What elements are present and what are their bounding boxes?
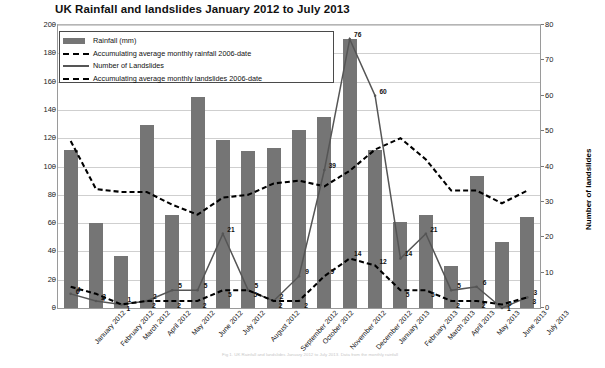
y-tickmark-left [52, 81, 56, 82]
y-tick-right: 70 [540, 55, 579, 64]
y-tick-left: 160 [20, 76, 56, 85]
chart-legend: Rainfall (mm)Accumulating average monthl… [59, 31, 334, 83]
x-tick-label: August 2012 [269, 309, 301, 343]
y-tickmark-left [52, 166, 56, 167]
y-tick-left: 20 [20, 274, 56, 283]
legend-item-label: Accumulating average monthly rainfall 20… [93, 49, 251, 58]
landslide-value-label: 5 [204, 282, 208, 289]
x-tick-label: July 2013 [545, 309, 570, 336]
landslide-avg-label: 5 [431, 291, 435, 298]
landslide-avg-label: 4 [101, 294, 105, 301]
landslide-value-label: 1 [128, 296, 132, 303]
y-tickmark-left [52, 222, 56, 223]
y-tick-right: 80 [540, 20, 579, 29]
legend-key-icon [63, 49, 89, 58]
y-tick-right: 50 [540, 126, 579, 135]
landslide-avg-label: 9 [331, 268, 335, 275]
y-axis-right: 01020304050607080 [540, 24, 574, 307]
landslide-value-label: 5 [178, 282, 182, 289]
legend-item-label: Number of Landslides [93, 61, 164, 70]
landslide-avg-label: 3 [532, 298, 536, 305]
chart-title: UK Rainfall and landslides January 2012 … [55, 3, 555, 15]
y-tick-right: 10 [540, 267, 579, 276]
y-tickmark-left [52, 52, 56, 53]
y-tick-left: 80 [20, 189, 56, 198]
figure-caption: Fig 1. UK Rainfall and landslides Januar… [60, 352, 560, 357]
y-tickmark-left [52, 279, 56, 280]
y-tick-left: 40 [20, 246, 56, 255]
y-axis-left: 020406080100120140160180200 [20, 24, 56, 307]
y-tick-right: 40 [540, 161, 579, 170]
y-tick-left: 180 [20, 48, 56, 57]
legend-item[interactable]: Accumulating average monthly rainfall 20… [63, 47, 330, 59]
y-tick-left: 100 [20, 161, 56, 170]
landslide-value-label: 2 [153, 292, 157, 299]
legend-item-label: Accumulating average monthly landslides … [93, 74, 262, 83]
y-tickmark-left [52, 250, 56, 251]
landslide-avg-label: 5 [228, 291, 232, 298]
y-tick-left: 200 [20, 20, 56, 29]
landslide-value-label: 5 [457, 282, 461, 289]
landslide-avg-label: 5 [406, 291, 410, 298]
landslide-avg-label: 2 [279, 301, 283, 308]
landslide-avg-label: 14 [354, 250, 361, 257]
chart-figure: UK Rainfall and landslides January 2012 … [0, 0, 605, 368]
y-tick-right: 60 [540, 90, 579, 99]
landslide-value-label: 3 [533, 289, 537, 296]
legend-item[interactable]: Rainfall (mm) [63, 35, 330, 47]
landslide-value-label: 2 [280, 292, 284, 299]
y-tick-left: 60 [20, 218, 56, 227]
legend-item[interactable]: Accumulating average monthly landslides … [63, 72, 330, 84]
y-tick-left: 140 [20, 104, 56, 113]
landslide-value-label: 21 [430, 225, 437, 232]
landslide-value-label: 76 [354, 31, 361, 38]
landslide-avg-label: 5 [253, 291, 257, 298]
landslide-avg-label: 2 [152, 301, 156, 308]
legend-item[interactable]: Number of Landslides [63, 60, 330, 72]
y-tickmark-left [52, 24, 56, 25]
landslide-value-label: 60 [379, 87, 386, 94]
landslide-avg-label: 12 [379, 257, 386, 264]
landslide-value-label: 5 [254, 282, 258, 289]
landslide-value-label: 39 [329, 162, 336, 169]
y-tickmark-left [52, 109, 56, 110]
landslide-value-label: 14 [405, 250, 412, 257]
landslide-avg-label: 2 [482, 301, 486, 308]
x-tick-label: June 2012 [216, 309, 243, 338]
x-tick-label: May 2012 [190, 309, 216, 337]
landslide-value-label: 6 [483, 278, 487, 285]
landslide-avg-label: 6 [76, 287, 80, 294]
y-tick-right: 30 [540, 196, 579, 205]
y-tick-right: 0 [540, 303, 579, 312]
legend-key-icon [63, 74, 89, 83]
landslide-value-label: 21 [227, 225, 234, 232]
landslide-avg-label: 2 [304, 301, 308, 308]
x-tick-label: June 2013 [521, 309, 548, 338]
legend-key-icon [63, 36, 89, 45]
x-tick-label: May 2013 [495, 309, 521, 337]
legend-item-label: Rainfall (mm) [93, 36, 136, 45]
y-tickmark-left [52, 137, 56, 138]
y-tick-left: 0 [20, 303, 56, 312]
legend-key-icon [63, 61, 89, 70]
landslide-avg-label: 2 [456, 301, 460, 308]
landslide-avg-label: 2 [203, 301, 207, 308]
landslide-avg-label: 2 [177, 301, 181, 308]
y-tick-right: 20 [540, 232, 579, 241]
y-tickmark-left [52, 194, 56, 195]
landslide-value-label: 9 [305, 268, 309, 275]
y-tick-left: 120 [20, 133, 56, 142]
y-axis-right-label: Number of landslides [584, 149, 593, 230]
x-tick-label: July 2012 [241, 309, 266, 336]
y-tickmark-left [52, 307, 56, 308]
